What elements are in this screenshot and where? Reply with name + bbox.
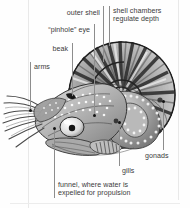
leader-dot-pinhole-eye [93,114,96,117]
leader-line-shell-chambers [109,6,110,46]
label-pinhole-eye: “pinhole” eye [28,26,90,34]
nautilus-anatomy-figure: outer shell shell chambers regulate dept… [0,0,190,208]
label-beak: beak [32,45,68,53]
label-outer-shell: outer shell [42,9,100,17]
leader-dot-funnel [53,127,56,130]
leader-dot-beak [71,96,74,99]
label-shell-chambers: shell chambers regulate depth [113,7,187,24]
leader-line-funnel [54,128,55,198]
leader-dot-gills [118,121,121,124]
leader-dot-gonads [162,100,165,103]
leader-line-gills [119,122,120,166]
label-arms: arms [34,63,78,71]
leader-line-gonads [163,101,164,150]
leader-line-pinhole-eye [94,24,95,115]
label-gills: gills [122,167,152,175]
label-gonads: gonads [145,152,189,160]
leader-dot-arms [29,109,32,112]
leader-line-arms [30,62,31,110]
leader-line-outer-shell [103,6,104,62]
label-funnel: funnel, where water is expelled for prop… [58,181,168,198]
